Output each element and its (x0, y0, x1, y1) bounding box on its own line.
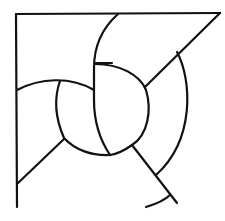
diagonal-lower-left-line (17, 139, 64, 184)
arc-upper-left (17, 80, 94, 90)
inner-circle-left-arc (56, 81, 110, 155)
tall-arc-left (94, 14, 118, 155)
frame-left-line (16, 14, 17, 207)
diagonal-top-right-line (145, 13, 220, 87)
small-arc-bottom (146, 195, 170, 207)
diagram-canvas (0, 0, 225, 221)
geometric-line-drawing (0, 0, 225, 221)
